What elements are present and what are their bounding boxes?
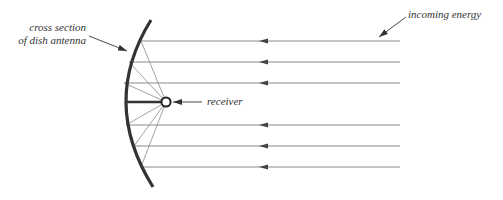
- receiver-label: receiver: [207, 95, 243, 108]
- dish-label-line1: cross section: [18, 21, 86, 34]
- arrowhead-icon: [259, 81, 268, 86]
- dish-label: cross section of dish antenna: [18, 21, 86, 47]
- arrowhead-icon: [259, 39, 268, 44]
- dish-curve: [126, 20, 153, 187]
- incoming-label-pointer: [379, 17, 406, 37]
- dish-label-pointer: [89, 36, 127, 51]
- arrowhead-icon: [259, 144, 268, 149]
- arrowhead-icon: [259, 165, 268, 170]
- arrowhead-icon: [259, 60, 268, 65]
- ray-arrowheads: [259, 39, 268, 170]
- incoming-energy-label: incoming energy: [408, 8, 481, 21]
- dish-label-line2: of dish antenna: [18, 34, 86, 47]
- reflected-rays: [124, 41, 166, 167]
- receiver-icon: [161, 97, 170, 106]
- arrowhead-icon: [259, 123, 268, 128]
